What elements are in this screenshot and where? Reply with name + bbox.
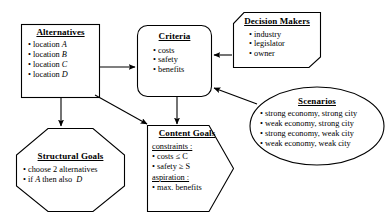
list-item: •strong economy, weak city: [260, 130, 380, 138]
list-item: •location A: [28, 41, 100, 49]
node-items-scenarios: •strong economy, strong city •weak econo…: [260, 110, 380, 148]
node-title-scenarios: Scenarios: [254, 97, 380, 106]
list-item: •safety ≥ S: [152, 163, 226, 171]
aspiration-label: aspiration :: [152, 174, 226, 182]
list-item: •owner: [249, 50, 321, 58]
node-items-criteria: •costs •safety •benefits: [153, 47, 212, 75]
node-decision-makers: Decision Makers •industry •legislator •o…: [233, 17, 321, 60]
list-item: •weak economy, weak city: [260, 140, 380, 148]
list-item: •costs: [153, 47, 212, 55]
node-title-structural-goals: Structural Goals: [17, 152, 124, 161]
list-item: •location D: [28, 71, 100, 79]
edge-scenarios-to-criteria: [214, 88, 257, 104]
list-item: •choose 2 alternatives: [23, 166, 124, 174]
node-content-goals: Content Goals constraints : •costs ≤ C •…: [148, 129, 226, 194]
node-title-alternatives: Alternatives: [21, 28, 100, 37]
list-item: •max. benefits: [152, 184, 226, 192]
node-aspiration-content-goals: •max. benefits: [152, 184, 226, 192]
list-item: •costs ≤ C: [152, 153, 226, 161]
node-title-decision-makers: Decision Makers: [233, 17, 321, 26]
list-item: •weak economy, strong city: [260, 120, 380, 128]
list-item: •industry: [249, 31, 321, 39]
node-structural-goals: Structural Goals •choose 2 alternatives …: [17, 152, 124, 186]
list-item: •strong economy, strong city: [260, 110, 380, 118]
node-constraints-content-goals: •costs ≤ C •safety ≥ S: [152, 153, 226, 171]
node-title-content-goals: Content Goals: [148, 129, 226, 138]
node-criteria: Criteria •costs •safety •benefits: [137, 32, 212, 76]
list-item: •legislator: [249, 40, 321, 48]
list-item: •if A then also D: [23, 176, 124, 184]
node-items-decision-makers: •industry •legislator •owner: [249, 31, 321, 59]
list-item: •safety: [153, 56, 212, 64]
node-title-criteria: Criteria: [137, 32, 212, 41]
list-item: •location C: [28, 61, 100, 69]
node-items-structural-goals: •choose 2 alternatives •if A then also D: [23, 166, 124, 184]
list-item: •location B: [28, 51, 100, 59]
node-items-alternatives: •location A •location B •location C •loc…: [28, 41, 100, 79]
list-item: •benefits: [153, 66, 212, 74]
node-scenarios: Scenarios •strong economy, strong city •…: [254, 97, 380, 150]
node-alternatives: Alternatives •location A •location B •lo…: [21, 28, 100, 81]
edge-alternatives-to-content-goals: [95, 95, 147, 124]
constraints-label: constraints :: [152, 143, 226, 151]
diagram-canvas: Alternatives •location A •location B •lo…: [0, 0, 386, 219]
